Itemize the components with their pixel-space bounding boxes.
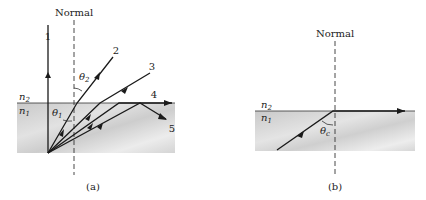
normal-label: Normal <box>55 7 93 18</box>
caption-a: (a) <box>86 181 100 192</box>
figure-b: Normal θc n2 n1 (b) <box>255 28 415 192</box>
figure-a: Normal 1 2 3 4 <box>17 7 175 192</box>
angle-theta2-label: θ2 <box>79 71 90 84</box>
arrow-icon <box>45 72 51 78</box>
ray-label-3: 3 <box>149 61 155 72</box>
ray-label-4: 4 <box>151 89 157 100</box>
normal-label: Normal <box>316 28 354 39</box>
arrow-icon <box>94 72 100 80</box>
medium-n2-label: n2 <box>19 91 30 104</box>
refraction-diagram: Normal 1 2 3 4 <box>0 0 426 200</box>
ray-label-2: 2 <box>113 45 119 56</box>
caption-b: (b) <box>328 181 342 192</box>
angle-arc-theta2 <box>74 88 82 91</box>
medium-n2-label: n2 <box>261 99 272 112</box>
ray-label-1: 1 <box>45 31 51 42</box>
ray-label-5: 5 <box>169 123 175 134</box>
